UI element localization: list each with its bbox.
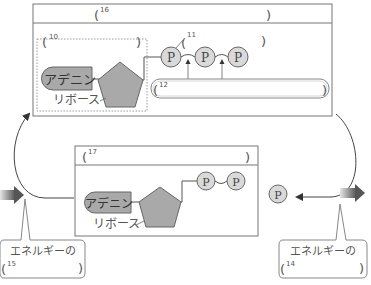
svg-text:16: 16 — [100, 6, 109, 14]
svg-text:(: ( — [280, 262, 285, 277]
svg-text:P: P — [232, 176, 240, 189]
callout-energy-14: エネルギーの ( 14 ) — [279, 204, 367, 278]
adenine-label: アデニン — [85, 196, 133, 211]
svg-text:): ) — [245, 150, 250, 165]
svg-text:P: P — [234, 51, 242, 65]
svg-text:P: P — [201, 51, 209, 65]
svg-text:(: ( — [82, 150, 87, 165]
hydrolysis-arrow — [297, 114, 356, 197]
svg-text:エネルギーの: エネルギーの — [10, 245, 76, 258]
callout-energy-15: エネルギーの ( 15 ) — [0, 199, 85, 278]
svg-text:(: ( — [42, 35, 47, 50]
svg-text:(: ( — [153, 83, 158, 98]
ribose-label: リボース — [93, 217, 140, 231]
svg-text:11: 11 — [187, 31, 196, 39]
svg-text:): ) — [78, 261, 83, 276]
svg-text:(: ( — [94, 8, 99, 23]
energy-output-arrow-icon — [340, 184, 365, 202]
svg-text:P: P — [274, 189, 282, 202]
svg-text:17: 17 — [88, 148, 97, 156]
svg-text:10: 10 — [49, 33, 58, 41]
svg-text:14: 14 — [286, 260, 295, 268]
synthesis-arrow — [14, 114, 74, 198]
atp-adp-cycle-diagram: ( 16 ) ( 10 ) アデニン リボース P P — [0, 0, 371, 285]
svg-text:): ) — [322, 83, 327, 98]
svg-text:P: P — [167, 51, 175, 65]
svg-text:12: 12 — [159, 81, 168, 89]
svg-text:(: ( — [1, 262, 6, 277]
adenine-label: アデニン — [44, 72, 96, 87]
energy-input-arrow-icon — [0, 186, 24, 204]
svg-text:P: P — [202, 176, 210, 189]
svg-text:エネルギーの: エネルギーの — [290, 245, 356, 258]
svg-text:): ) — [359, 261, 364, 276]
blank-12[interactable]: ( 12 ) — [151, 79, 329, 98]
adp-box: ( 17 ) アデニン リボース P P — [75, 146, 258, 236]
atp-box: ( 16 ) ( 10 ) アデニン リボース P P — [33, 4, 332, 116]
svg-text:(: ( — [181, 36, 186, 51]
svg-text:): ) — [266, 8, 271, 23]
atp-phosphate-chain: P P P — [161, 47, 248, 67]
free-phosphate: P — [269, 185, 287, 203]
svg-text:15: 15 — [7, 260, 16, 268]
svg-text:): ) — [261, 34, 266, 49]
ribose-label: リボース — [53, 93, 100, 107]
svg-text:): ) — [136, 35, 141, 50]
